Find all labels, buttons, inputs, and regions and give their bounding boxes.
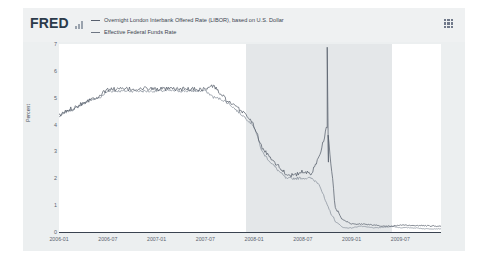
y-tick-label: 3 [47, 148, 57, 154]
y-tick-label: 0 [47, 229, 57, 235]
y-axis-label: Percent [25, 104, 31, 122]
legend-item-fed-funds[interactable]: Effective Federal Funds Rate [91, 27, 421, 37]
x-tick-label: 2008-01 [245, 236, 264, 243]
grid-menu-icon[interactable] [444, 19, 453, 28]
x-tick-label: 2006-07 [98, 236, 117, 243]
y-tick-label: 6 [47, 68, 57, 74]
x-axis-line [59, 232, 441, 233]
fred-panel: FRED Overnight London Interbank Offered … [23, 8, 465, 251]
x-tick-label: 2007-01 [147, 236, 166, 243]
x-tick-label: 2009-01 [342, 236, 361, 243]
plot-area [59, 44, 441, 232]
y-tick-label: 4 [47, 122, 57, 128]
bar-chart-icon [75, 20, 85, 29]
y-tick-label: 1 [47, 202, 57, 208]
legend-label-libor: Overnight London Interbank Offered Rate … [104, 17, 284, 24]
x-tick-label: 2009-07 [391, 236, 410, 243]
series-lines [59, 44, 441, 232]
chart-legend: Overnight London Interbank Offered Rate … [91, 15, 421, 39]
fred-chart-screenshot: FRED Overnight London Interbank Offered … [0, 0, 488, 268]
series-line-fed-funds [59, 90, 441, 230]
y-axis-ticks: 01234567 [43, 44, 57, 232]
y-tick-label: 2 [47, 175, 57, 181]
legend-swatch-fed-funds [91, 32, 100, 33]
legend-label-fed-funds: Effective Federal Funds Rate [104, 29, 176, 36]
legend-item-libor[interactable]: Overnight London Interbank Offered Rate … [91, 15, 421, 25]
y-tick-label: 5 [47, 95, 57, 101]
chart-header: FRED Overnight London Interbank Offered … [23, 8, 465, 42]
legend-swatch-libor [91, 20, 100, 21]
plot-wrapper: Percent 01234567 2006-012006-072007-0120… [23, 42, 465, 251]
x-tick-label: 2007-07 [196, 236, 215, 243]
x-tick-label: 2006-01 [49, 236, 68, 243]
series-line-libor [59, 47, 441, 226]
x-tick-label: 2008-07 [293, 236, 312, 243]
fred-logo: FRED [30, 16, 69, 30]
y-tick-label: 7 [47, 41, 57, 47]
